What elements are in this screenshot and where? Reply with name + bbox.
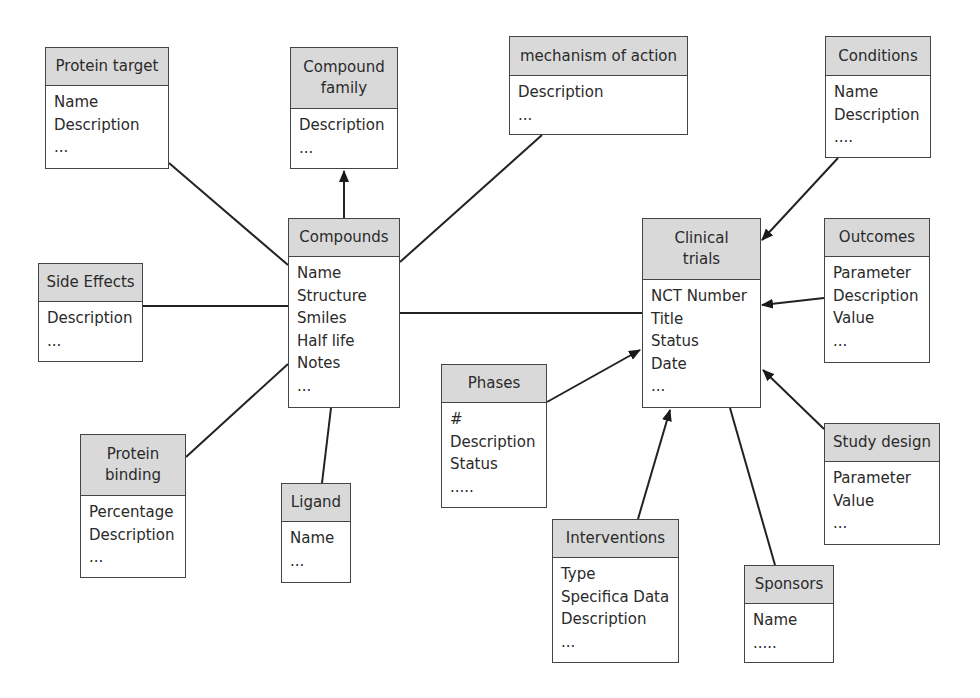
entity-compounds: Compounds Name Structure Smiles Half lif…: [288, 218, 400, 408]
attribute: Description: [89, 524, 185, 547]
edge-compounds-ligand: [322, 408, 331, 483]
entity-header: mechanism of action: [510, 37, 687, 76]
attribute: ...: [89, 546, 185, 569]
entity-attributes: Description ...: [510, 76, 687, 126]
attribute: Specifica Data: [561, 586, 678, 609]
attribute: ...: [518, 104, 687, 127]
edge-sponsors-clinical-trials: [730, 408, 775, 565]
attribute: Name: [834, 81, 930, 104]
attribute: Status: [651, 330, 760, 353]
attribute: ...: [290, 550, 350, 573]
attribute: ...: [833, 330, 929, 353]
attribute: ...: [47, 330, 142, 353]
attribute: Parameter: [833, 262, 929, 285]
entity-header: Sponsors: [745, 566, 833, 604]
attribute: ...: [297, 375, 399, 398]
entity-attributes: Name .....: [745, 604, 833, 654]
entity-header: Clinical trials: [643, 219, 760, 280]
edge-compounds-protein-target: [169, 163, 288, 265]
attribute: Name: [290, 527, 350, 550]
entity-side-effects: Side Effects Description ...: [38, 263, 143, 362]
attribute: Half life: [297, 330, 399, 353]
attribute: NCT Number: [651, 285, 760, 308]
attribute: Name: [297, 262, 399, 285]
entity-attributes: Percentage Description ...: [81, 496, 185, 569]
entity-header: Compounds: [289, 219, 399, 257]
attribute: ...: [54, 136, 168, 159]
attribute: Description: [450, 431, 546, 454]
entity-attributes: # Description Status .....: [442, 403, 546, 498]
attribute: Name: [54, 91, 168, 114]
entity-attributes: Name Description ....: [826, 76, 930, 149]
attribute: Value: [833, 490, 939, 513]
entity-phases: Phases # Description Status .....: [441, 364, 547, 508]
entity-header: Conditions: [826, 37, 930, 76]
edge-phases-clinical-trials: [547, 350, 640, 402]
edge-study-design-clinical-trials: [763, 370, 824, 429]
entity-compound-family: Compound family Description ...: [290, 47, 398, 169]
attribute: Type: [561, 563, 678, 586]
attribute: ...: [299, 137, 397, 160]
entity-attributes: Parameter Value ...: [825, 462, 939, 535]
entity-mechanism-of-action: mechanism of action Description ...: [509, 36, 688, 135]
attribute: Percentage: [89, 501, 185, 524]
entity-header: Outcomes: [825, 219, 929, 257]
entity-conditions: Conditions Name Description ....: [825, 36, 931, 158]
entity-attributes: Description ...: [291, 109, 397, 159]
attribute: ...: [651, 375, 760, 398]
edge-compounds-mechanism: [400, 135, 542, 262]
edge-interventions-clinical-trials: [638, 410, 670, 519]
entity-attributes: NCT Number Title Status Date ...: [643, 280, 760, 398]
entity-header: Protein target: [46, 48, 168, 86]
entity-clinical-trials: Clinical trials NCT Number Title Status …: [642, 218, 761, 408]
edge-outcomes-clinical-trials: [762, 298, 824, 305]
entity-attributes: Parameter Description Value ...: [825, 257, 929, 352]
attribute: Description: [299, 114, 397, 137]
attribute: #: [450, 408, 546, 431]
attribute: Date: [651, 353, 760, 376]
attribute: Description: [47, 307, 142, 330]
entity-attributes: Name Structure Smiles Half life Notes ..…: [289, 257, 399, 397]
attribute: .....: [753, 632, 833, 655]
entity-protein-target: Protein target Name Description ...: [45, 47, 169, 169]
entity-header: Study design: [825, 424, 939, 462]
entity-header: Compound family: [291, 48, 397, 109]
entity-protein-binding: Protein binding Percentage Description .…: [80, 434, 186, 578]
attribute: ...: [561, 631, 678, 654]
entity-interventions: Interventions Type Specifica Data Descri…: [552, 519, 679, 663]
entity-study-design: Study design Parameter Value ...: [824, 423, 940, 545]
entity-outcomes: Outcomes Parameter Description Value ...: [824, 218, 930, 363]
attribute: Description: [518, 81, 687, 104]
attribute: ...: [833, 512, 939, 535]
entity-sponsors: Sponsors Name .....: [744, 565, 834, 663]
attribute: .....: [450, 476, 546, 499]
attribute: Status: [450, 453, 546, 476]
entity-attributes: Description ...: [39, 302, 142, 352]
attribute: Description: [54, 114, 168, 137]
attribute: Smiles: [297, 307, 399, 330]
attribute: Notes: [297, 352, 399, 375]
entity-header: Ligand: [282, 484, 350, 522]
entity-ligand: Ligand Name ...: [281, 483, 351, 583]
entity-header: Protein binding: [81, 435, 185, 496]
attribute: Description: [833, 285, 929, 308]
attribute: Description: [834, 104, 930, 127]
entity-header: Phases: [442, 365, 546, 403]
edge-compounds-protein-binding: [186, 364, 288, 457]
attribute: Structure: [297, 285, 399, 308]
attribute: Description: [561, 608, 678, 631]
entity-attributes: Type Specifica Data Description ...: [553, 558, 678, 653]
entity-attributes: Name Description ...: [46, 86, 168, 159]
attribute: Value: [833, 307, 929, 330]
entity-header: Side Effects: [39, 264, 142, 302]
attribute: Parameter: [833, 467, 939, 490]
entity-header: Interventions: [553, 520, 678, 558]
entity-attributes: Name ...: [282, 522, 350, 572]
attribute: Title: [651, 308, 760, 331]
attribute: ....: [834, 126, 930, 149]
attribute: Name: [753, 609, 833, 632]
